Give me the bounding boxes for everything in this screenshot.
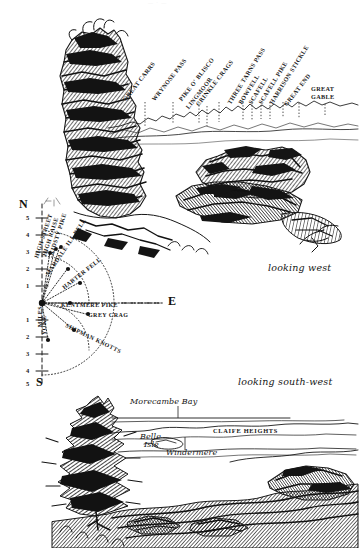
label-claife-heights: CLAIFE HEIGHTS	[213, 428, 278, 435]
skyline-label-great-gable-line2: GABLE	[311, 94, 334, 101]
compass-north-label: N	[19, 197, 28, 212]
scale-number-down-5: 5	[26, 380, 29, 387]
caption-looking-south-west: looking south-west	[238, 376, 332, 387]
scale-number-down-1: 1	[26, 316, 29, 323]
scale-number-up-5: 5	[26, 214, 29, 221]
scale-number-up-3: 3	[26, 248, 29, 255]
label-isle: Isle	[144, 441, 159, 449]
guide-page: — · —	[0, 0, 359, 548]
caption-looking-west: looking west	[268, 262, 331, 273]
scale-number-up-2: 2	[26, 265, 29, 272]
lower-panorama-drawing	[0, 392, 359, 548]
scale-number-up-4: 4	[26, 231, 29, 238]
label-windermere: Windermere	[166, 449, 217, 457]
scale-number-down-2: 2	[26, 333, 29, 340]
ridge-label-grey-crag: GREY CRAG	[88, 312, 128, 318]
ridge-label-yoke: YOKE	[41, 316, 47, 335]
scale-number-down-4: 4	[26, 367, 29, 374]
compass-east-label: E	[168, 294, 176, 309]
scale-number-up-1: 1	[26, 282, 29, 289]
label-morecambe-bay: Morecambe Bay	[130, 398, 197, 406]
ridge-label-kentmere-pike: KENTMERE PIKE	[61, 302, 118, 308]
compass-south-label: S	[36, 375, 43, 390]
skyline-label-great-gable-line1: GREAT	[311, 86, 334, 93]
scale-number-down-3: 3	[26, 350, 29, 357]
